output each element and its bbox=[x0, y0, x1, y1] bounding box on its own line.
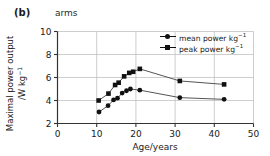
y-tick-label: 4 bbox=[46, 96, 52, 106]
data-point-marker bbox=[222, 97, 227, 102]
x-tick-label: 0 bbox=[55, 129, 61, 139]
data-series-layer bbox=[96, 67, 226, 115]
data-point-marker bbox=[120, 91, 125, 96]
data-point-marker bbox=[116, 80, 121, 85]
x-tick-label: 10 bbox=[91, 129, 103, 139]
data-point-marker bbox=[122, 74, 127, 79]
data-point-marker bbox=[131, 69, 136, 74]
y-tick-label: 10 bbox=[40, 27, 52, 37]
data-point-marker bbox=[137, 88, 142, 93]
legend-marker-icon bbox=[160, 43, 176, 52]
data-point-marker bbox=[127, 71, 132, 76]
y-tick-label: 8 bbox=[46, 50, 52, 60]
data-point-marker bbox=[222, 82, 227, 87]
x-tick-label: 30 bbox=[169, 129, 181, 139]
legend-item-label: peak power kg−1 bbox=[179, 41, 243, 55]
data-point-marker bbox=[106, 91, 111, 96]
legend-item: peak power kg−1 bbox=[160, 42, 246, 53]
x-tick-label: 40 bbox=[209, 129, 221, 139]
data-point-marker bbox=[96, 98, 101, 103]
plot-area: 24681001020304050 bbox=[0, 0, 270, 156]
legend-label-exponent: −1 bbox=[238, 32, 246, 38]
x-tick-label: 50 bbox=[248, 129, 260, 139]
data-point-marker bbox=[178, 79, 183, 84]
legend-label-text: peak power kg bbox=[179, 44, 235, 53]
data-point-marker bbox=[138, 67, 143, 72]
data-point-marker bbox=[97, 110, 102, 115]
y-tick-label: 2 bbox=[46, 119, 52, 129]
y-tick-label: 6 bbox=[46, 73, 52, 83]
data-point-marker bbox=[115, 96, 120, 101]
data-point-marker bbox=[128, 87, 133, 92]
legend-marker-icon bbox=[160, 32, 176, 41]
data-point-marker bbox=[106, 103, 111, 108]
x-tick-label: 20 bbox=[130, 129, 142, 139]
figure-panel-b: (b) arms Maximal power output /W kg−1 Ag… bbox=[0, 0, 270, 156]
legend-label-exponent: −1 bbox=[235, 43, 243, 49]
data-point-marker bbox=[177, 95, 182, 100]
legend: mean power kg−1peak power kg−1 bbox=[160, 31, 246, 53]
